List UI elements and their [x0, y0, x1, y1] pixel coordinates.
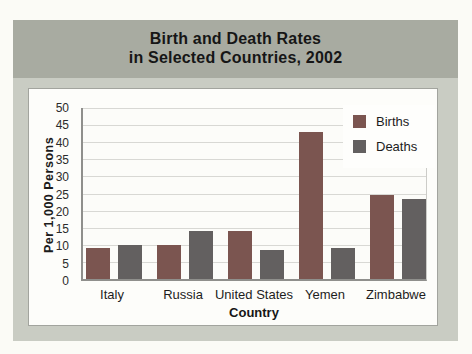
- bar-deaths-yemen: [331, 248, 355, 279]
- y-tick-15: 15: [56, 223, 69, 235]
- y-tick-20: 20: [56, 206, 69, 218]
- y-tick-10: 10: [56, 240, 69, 252]
- y-tick-5: 5: [62, 258, 69, 270]
- bar-births-russia: [157, 245, 181, 279]
- chart-title-line2: in Selected Countries, 2002: [13, 48, 458, 67]
- y-tick-45: 45: [56, 119, 69, 131]
- chart-panel: Per 1,000 Persons 50454035302520151050 I…: [28, 88, 438, 326]
- bar-deaths-russia: [189, 231, 213, 279]
- x-label-zimbabwe: Zimbabwe: [366, 287, 426, 302]
- x-label-russia: Russia: [163, 287, 203, 302]
- y-tick-35: 35: [56, 154, 69, 166]
- x-label-united-states: United States: [215, 287, 293, 302]
- x-axis-labels: ItalyRussiaUnited StatesYemenZimbabwe: [29, 287, 437, 303]
- bar-deaths-united-states: [260, 250, 284, 279]
- y-tick-50: 50: [56, 102, 69, 114]
- bar-group-russia: [157, 108, 213, 279]
- legend-item-births: Births: [353, 114, 435, 129]
- births-swatch-icon: [353, 115, 366, 128]
- deaths-swatch-icon: [353, 140, 366, 153]
- y-tick-0: 0: [62, 275, 69, 287]
- bar-deaths-zimbabwe: [402, 199, 426, 279]
- chart-card: Birth and Death Rates in Selected Countr…: [13, 20, 458, 341]
- legend-label-births: Births: [376, 114, 409, 129]
- bar-deaths-italy: [118, 245, 142, 279]
- bar-group-italy: [86, 108, 142, 279]
- bar-births-italy: [86, 248, 110, 279]
- title-banner: Birth and Death Rates in Selected Countr…: [13, 20, 458, 78]
- legend-label-deaths: Deaths: [376, 139, 417, 154]
- bar-births-yemen: [299, 132, 323, 279]
- x-label-italy: Italy: [100, 287, 124, 302]
- chart-title-line1: Birth and Death Rates: [13, 29, 458, 48]
- bar-births-united-states: [228, 231, 252, 279]
- y-tick-30: 30: [56, 171, 69, 183]
- y-tick-40: 40: [56, 137, 69, 149]
- y-axis-ticks: 50454035302520151050: [29, 108, 74, 281]
- bar-group-united-states: [228, 108, 284, 279]
- legend: Births Deaths: [343, 105, 435, 168]
- x-label-yemen: Yemen: [305, 287, 345, 302]
- x-axis-title: Country: [229, 305, 279, 320]
- y-tick-25: 25: [56, 189, 69, 201]
- legend-item-deaths: Deaths: [353, 139, 435, 154]
- bar-births-zimbabwe: [370, 195, 394, 279]
